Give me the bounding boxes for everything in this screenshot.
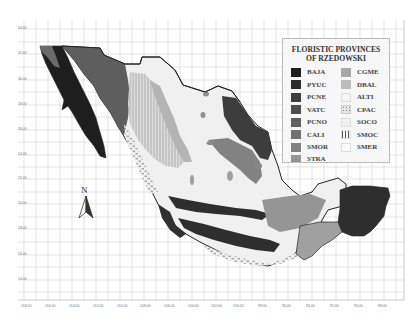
legend-label: SOCO (357, 118, 377, 126)
x-axis-label: 92.00 (330, 304, 339, 308)
y-axis-label: 14.00 (18, 277, 27, 281)
legend: FLORISTIC PROVINCES OF RZEDOWSKI BAJA PY… (282, 38, 390, 163)
legend-label: STRA (307, 155, 326, 163)
x-axis-label: 106.00 (164, 304, 175, 308)
legend-label: PCNE (307, 93, 326, 101)
swatch-smer (341, 143, 351, 152)
region-pyuc (338, 186, 390, 236)
y-axis-label: 32.00 (18, 51, 27, 55)
legend-label: SMOC (357, 131, 378, 139)
legend-item-alti: ALTI (341, 92, 373, 102)
legend-title-line2: OF RZEDOWSKI (283, 55, 389, 64)
x-axis-label: 88.00 (378, 304, 387, 308)
north-arrow-icon (78, 194, 94, 226)
y-axis-label: 20.00 (18, 201, 27, 205)
legend-item-baja: BAJA (291, 67, 325, 77)
legend-label: DBAL (357, 81, 376, 89)
swatch-pyuc (291, 80, 301, 89)
y-axis-label: 26.00 (18, 127, 27, 131)
x-axis-label: 102.00 (211, 304, 222, 308)
legend-item-dbal: DBAL (341, 80, 376, 90)
legend-item-vatc: VATC (291, 105, 325, 115)
legend-item-pyuc: PYUC (291, 80, 326, 90)
legend-label: ALTI (357, 93, 373, 101)
x-axis-label: 108.00 (140, 304, 151, 308)
legend-item-cali: CALI (291, 130, 325, 140)
legend-item-cpac: CPAC (341, 105, 376, 115)
y-axis-label: 34.00 (18, 26, 27, 30)
x-axis-label: 94.00 (306, 304, 315, 308)
swatch-alti (341, 93, 351, 102)
swatch-pcne (291, 93, 301, 102)
x-axis-label: 118.00 (21, 304, 31, 308)
legend-item-smer: SMER (341, 142, 377, 152)
legend-item-soco: SOCO (341, 117, 377, 127)
swatch-smoc (341, 130, 351, 139)
legend-item-smoc: SMOC (341, 130, 378, 140)
x-axis-label: 90.00 (354, 304, 363, 308)
floristic-provinces-map: 34.00 32.00 30.00 28.00 26.00 24.00 22.0… (0, 0, 416, 324)
swatch-baja (291, 68, 301, 77)
x-axis-label: 96.00 (282, 304, 291, 308)
x-axis-label: 98.00 (258, 304, 267, 308)
legend-item-pcne: PCNE (291, 92, 326, 102)
swatch-smor (291, 143, 301, 152)
legend-label: PCNO (307, 118, 327, 126)
y-axis-label: 16.00 (18, 252, 27, 256)
legend-label: BAJA (307, 68, 325, 76)
legend-label: CALI (307, 131, 325, 139)
x-axis-label: 112.00 (93, 304, 103, 308)
y-axis-label: 24.00 (18, 152, 27, 156)
legend-item-cgme: CGME (341, 67, 379, 77)
legend-label: SMOR (307, 143, 328, 151)
legend-item-stra: STRA (291, 155, 326, 163)
y-axis-label: 22.00 (18, 176, 27, 180)
legend-label: VATC (307, 106, 325, 114)
swatch-cgme (341, 68, 351, 77)
swatch-soco (341, 118, 351, 127)
x-axis-label: 114.00 (69, 304, 79, 308)
region-isthmus-cali (296, 222, 342, 260)
legend-label: CGME (357, 68, 379, 76)
y-axis-label: 18.00 (18, 226, 27, 230)
swatch-stra (291, 155, 301, 162)
legend-label: SMER (357, 143, 377, 151)
swatch-pcno (291, 118, 301, 127)
swatch-cali (291, 130, 301, 139)
y-axis-label: 28.00 (18, 102, 27, 106)
swatch-cpac (341, 105, 351, 114)
x-axis-label: 110.00 (117, 304, 127, 308)
legend-item-pcno: PCNO (291, 117, 327, 127)
y-axis-label: 30.00 (18, 77, 27, 81)
x-axis-label: 104.00 (188, 304, 199, 308)
x-axis-label: 100.00 (233, 304, 244, 308)
swatch-dbal (341, 80, 351, 89)
legend-label: CPAC (357, 106, 376, 114)
legend-title: FLORISTIC PROVINCES OF RZEDOWSKI (283, 46, 389, 63)
swatch-vatc (291, 105, 301, 114)
x-axis-label: 116.00 (45, 304, 55, 308)
legend-label: PYUC (307, 81, 326, 89)
legend-item-smor: SMOR (291, 142, 328, 152)
